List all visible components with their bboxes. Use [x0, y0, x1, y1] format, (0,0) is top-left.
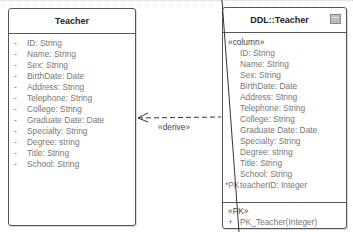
derive-dependency-line[interactable] [138, 117, 221, 118]
connectors [0, 0, 353, 232]
vertical-connector-line[interactable] [222, 0, 239, 232]
derive-label: «derive» [158, 122, 190, 132]
